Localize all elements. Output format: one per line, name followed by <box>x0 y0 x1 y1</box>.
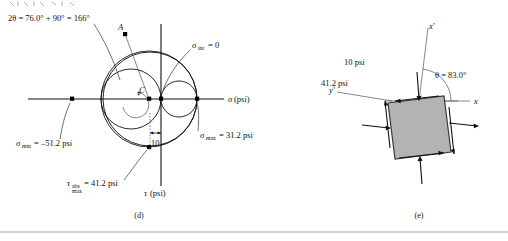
tau-abs-max-subscript-max: max <box>72 188 82 194</box>
sigma-min-leader <box>60 103 70 139</box>
normal-stress-label: 10 psi <box>344 57 365 67</box>
tau-abs-max-value: = 41.2 psi <box>84 178 118 188</box>
axis-xprime-label: x′ <box>428 21 435 31</box>
sigma-axis-label-symbol: σ <box>228 94 233 104</box>
axis-xprime-line <box>419 28 428 101</box>
sigma-min-subscript: min <box>22 143 31 149</box>
sigma-min-annotation: σ min = –51.2 psi <box>16 103 73 149</box>
stress-element-square <box>388 96 451 159</box>
figure-svg: 10 σ (psi) τ (psi) 2θ = 76.0° + 90° = 16… <box>0 0 508 241</box>
figure-stage: 10 σ (psi) τ (psi) 2θ = 76.0° + 90° = 16… <box>0 0 508 241</box>
point-sigma-int <box>159 97 163 101</box>
axis-x-label: x <box>473 96 478 106</box>
top-cropped-text-fragment <box>10 1 74 6</box>
sigma-int-symbol: σ <box>192 40 197 50</box>
caption-d: (d) <box>134 211 144 220</box>
point-sigma-max <box>195 97 199 101</box>
two-theta-label: 2θ = 76.0° + 90° = 166° <box>8 13 90 23</box>
tau-axis-label-units: (psi) <box>150 188 166 198</box>
sigma-max-leader <box>197 103 199 131</box>
sigma-max-subscript: max <box>206 135 216 141</box>
tau-abs-max-symbol: τ <box>67 178 71 188</box>
sigma-int-leader <box>163 50 190 90</box>
point-sigma-min <box>70 97 74 101</box>
tau-abs-max-annotation: τ abs max = 41.2 psi <box>67 150 147 194</box>
two-theta-leader <box>94 24 120 80</box>
radius-line-CA <box>125 34 149 99</box>
sigma-max-value: = 31.2 psi <box>219 130 253 140</box>
sigma-int-subscript: int <box>198 45 205 51</box>
theta-label: θ = 83.0° <box>435 70 466 80</box>
axis-yprime-line <box>337 92 392 101</box>
sigma-min-symbol: σ <box>16 138 21 148</box>
sigma-min-value: = –51.2 psi <box>34 138 73 148</box>
tau-abs-max-leader <box>124 150 147 180</box>
point-A-label: A <box>117 22 124 32</box>
shear-stress-label: 41.2 psi <box>321 78 349 88</box>
point-center-C <box>147 97 151 101</box>
caption-e: (e) <box>415 211 424 220</box>
dimension-10-label: 10 <box>151 138 160 148</box>
tau-axis-label-symbol: τ <box>144 188 148 198</box>
sigma-int-value: = 0 <box>208 40 219 50</box>
sigma-axis-label-units: (psi) <box>234 94 250 104</box>
sigma-max-annotation: σ max = 31.2 psi <box>197 103 253 141</box>
panel-e: x y′ x′ <box>321 21 479 220</box>
panel-d: 10 σ (psi) τ (psi) 2θ = 76.0° + 90° = 16… <box>8 13 253 220</box>
point-A <box>123 32 127 36</box>
two-theta-arc <box>123 92 149 118</box>
sigma-max-symbol: σ <box>200 130 205 140</box>
center-C-label: C <box>139 85 145 95</box>
